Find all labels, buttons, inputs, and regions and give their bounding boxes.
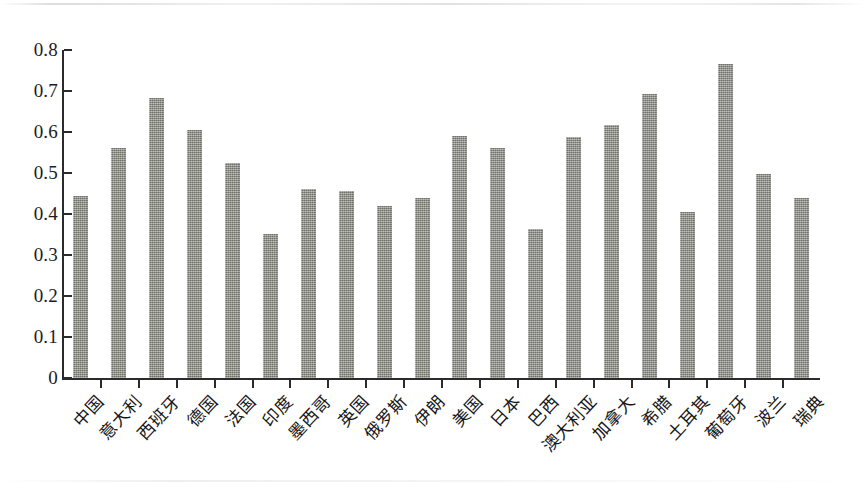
bar: [718, 64, 733, 378]
y-axis-tick-label: 0.5: [0, 163, 58, 182]
bar: [490, 148, 505, 378]
bar: [794, 198, 809, 378]
x-axis-tick: [252, 380, 254, 388]
x-axis-tick: [403, 380, 405, 388]
x-axis-category-label: 瑞典: [790, 392, 828, 431]
bar: [680, 212, 695, 378]
x-axis-tick: [138, 380, 140, 388]
x-axis-category-label: 土耳其: [664, 392, 714, 443]
x-axis-category-label: 法国: [222, 392, 260, 431]
x-axis-tick: [214, 380, 216, 388]
x-axis-category-label: 德国: [184, 392, 222, 431]
y-axis-tick-label: 0.8: [0, 40, 58, 59]
y-axis-tick-label: 0.7: [0, 81, 58, 100]
y-axis-line: [62, 50, 64, 380]
x-axis-category-label: 波兰: [752, 392, 790, 431]
y-axis-tick: [64, 377, 72, 379]
y-axis-tick-label: 0.4: [0, 204, 58, 223]
y-axis-tick-label-text: 0.7: [6, 81, 58, 100]
y-axis-tick-label-text: 0.4: [6, 204, 58, 223]
bar: [566, 137, 581, 378]
y-axis-tick-label: 0.6: [0, 122, 58, 141]
y-axis-tick-label-text: 0.3: [6, 245, 58, 264]
x-axis-category-label: 加拿大: [589, 392, 639, 443]
bar: [187, 130, 202, 378]
y-axis-tick-label: 0.2: [0, 286, 58, 305]
bar: [642, 94, 657, 378]
y-axis-tick-label-text: 0.1: [6, 327, 58, 346]
x-axis-tick: [176, 380, 178, 388]
bar: [415, 198, 430, 378]
x-axis-tick: [555, 380, 557, 388]
x-axis-tick: [100, 380, 102, 388]
bar-chart: 0.80.70.60.50.40.30.20.10 中国意大利西班牙德国法国印度…: [0, 0, 865, 484]
y-axis-tick-label: 0.3: [0, 245, 58, 264]
bar: [339, 191, 354, 378]
bar: [604, 125, 619, 378]
y-axis-tick-label-text: 0.2: [6, 286, 58, 305]
bar: [263, 234, 278, 378]
bar: [301, 189, 316, 378]
x-axis-tick: [782, 380, 784, 388]
bar: [528, 229, 543, 378]
x-axis-category-label: 日本: [487, 392, 525, 431]
bar: [73, 196, 88, 378]
scan-edge-artifact-bottom: [0, 480, 865, 482]
y-axis-tick: [64, 49, 72, 51]
bar: [377, 206, 392, 378]
y-axis-tick: [64, 131, 72, 133]
y-axis-tick: [64, 90, 72, 92]
y-axis-tick-label: 0.1: [0, 327, 58, 346]
x-axis-tick: [441, 380, 443, 388]
x-axis-tick: [517, 380, 519, 388]
x-axis-tick: [744, 380, 746, 388]
x-axis-category-label: 葡萄牙: [702, 392, 752, 443]
y-axis-tick-label-text: 0.6: [6, 122, 58, 141]
bar: [111, 148, 126, 378]
y-axis-tick-label: 0: [0, 368, 58, 387]
scan-edge-artifact-top: [0, 3, 865, 5]
y-axis-tick-label-text: 0.8: [6, 40, 58, 59]
bar: [225, 163, 240, 378]
x-axis-category-label: 西班牙: [134, 392, 184, 443]
x-axis-tick: [706, 380, 708, 388]
x-axis-tick: [365, 380, 367, 388]
bar: [756, 174, 771, 378]
bar: [149, 98, 164, 378]
y-axis-tick: [64, 295, 72, 297]
x-axis-category-label: 美国: [449, 392, 487, 431]
x-axis-tick: [327, 380, 329, 388]
x-axis-tick: [289, 380, 291, 388]
y-axis-tick: [64, 336, 72, 338]
y-axis-tick: [64, 172, 72, 174]
y-axis-tick: [64, 254, 72, 256]
x-axis-tick: [593, 380, 595, 388]
x-axis-tick: [668, 380, 670, 388]
x-axis-category-label: 伊朗: [411, 392, 449, 431]
x-axis-tick: [479, 380, 481, 388]
y-axis-tick: [64, 213, 72, 215]
x-axis-category-label: 俄罗斯: [361, 392, 411, 443]
x-axis-tick: [631, 380, 633, 388]
y-axis-tick-label-text: 0: [6, 368, 58, 387]
x-axis-category-label: 墨西哥: [285, 392, 335, 443]
x-axis-category-label: 意大利: [96, 392, 146, 443]
bar: [452, 136, 467, 378]
y-axis-tick-label-text: 0.5: [6, 163, 58, 182]
